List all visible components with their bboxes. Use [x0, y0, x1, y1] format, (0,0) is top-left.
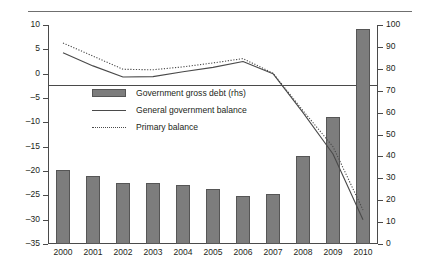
right-tick-mark — [378, 135, 383, 136]
legend: Government gross debt (rhs) General gove… — [86, 86, 256, 137]
legend-label-debt: Government gross debt (rhs) — [136, 87, 246, 99]
right-tick-label: 90 — [386, 42, 412, 51]
left-tick-label: –10 — [14, 117, 40, 126]
right-tick-label: 60 — [386, 108, 412, 117]
right-tick-mark — [378, 25, 383, 26]
x-axis-label: 2006 — [228, 247, 258, 257]
left-tick-mark — [43, 244, 48, 245]
right-tick-mark — [378, 244, 383, 245]
left-tick-label: –25 — [14, 190, 40, 199]
legend-item-primary: Primary balance — [86, 120, 256, 137]
top-rule — [28, 11, 412, 12]
x-axis-label: 2002 — [108, 247, 138, 257]
left-tick-label: –35 — [14, 239, 40, 248]
right-tick-mark — [378, 113, 383, 114]
left-tick-label: 5 — [14, 44, 40, 53]
legend-item-balance: General government balance — [86, 103, 256, 120]
right-tick-label: 40 — [386, 151, 412, 160]
legend-item-debt: Government gross debt (rhs) — [86, 86, 256, 103]
right-tick-mark — [378, 156, 383, 157]
right-tick-label: 10 — [386, 217, 412, 226]
right-tick-label: 0 — [386, 239, 412, 248]
left-tick-label: –5 — [14, 93, 40, 102]
bar-swatch-icon — [92, 89, 126, 97]
x-axis-label: 2008 — [288, 247, 318, 257]
right-tick-label: 70 — [386, 86, 412, 95]
x-axis-label: 2003 — [138, 247, 168, 257]
left-tick-label: 10 — [14, 20, 40, 29]
solid-line-swatch-icon — [92, 110, 126, 111]
x-axis-label: 2005 — [198, 247, 228, 257]
left-tick-label: 0 — [14, 69, 40, 78]
right-tick-mark — [378, 47, 383, 48]
right-tick-label: 100 — [386, 20, 412, 29]
x-axis-label: 2010 — [348, 247, 378, 257]
right-tick-mark — [378, 222, 383, 223]
right-tick-label: 50 — [386, 130, 412, 139]
dotted-line-swatch-icon — [92, 127, 126, 128]
right-tick-label: 80 — [386, 64, 412, 73]
left-tick-label: –15 — [14, 142, 40, 151]
left-tick-label: –20 — [14, 166, 40, 175]
x-axis-label: 2004 — [168, 247, 198, 257]
x-axis-label: 2009 — [318, 247, 348, 257]
right-tick-mark — [378, 91, 383, 92]
right-tick-mark — [378, 69, 383, 70]
right-tick-mark — [378, 178, 383, 179]
legend-label-balance: General government balance — [136, 104, 247, 116]
legend-label-primary: Primary balance — [136, 121, 198, 133]
figure: 1050–5–10–15–20–25–30–35 100908070605040… — [0, 0, 428, 268]
x-axis-label: 2000 — [48, 247, 78, 257]
x-axis-label: 2007 — [258, 247, 288, 257]
x-axis-label: 2001 — [78, 247, 108, 257]
left-tick-label: –30 — [14, 215, 40, 224]
right-tick-label: 30 — [386, 173, 412, 182]
right-tick-mark — [378, 200, 383, 201]
right-tick-label: 20 — [386, 195, 412, 204]
